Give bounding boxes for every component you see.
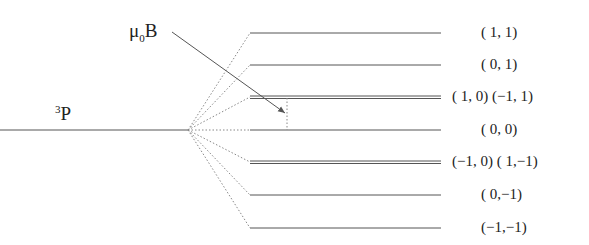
splitting-fan [188,33,250,228]
level-label: ( 1, 0) (−1, 1) [452,88,533,105]
term-label: 3P [55,103,71,125]
level-label: (−1,−1) [481,219,527,236]
level-label: ( 1, 1) [481,24,517,41]
level-label: ( 0,−1) [481,186,522,203]
split-levels [250,33,441,228]
field-label: μ0B [129,20,157,44]
level-label: (−1, 0) ( 1,−1) [452,153,538,170]
level-label: ( 0, 1) [481,56,517,73]
level-label: ( 0, 0) [481,121,517,138]
field-arrow [172,32,285,113]
